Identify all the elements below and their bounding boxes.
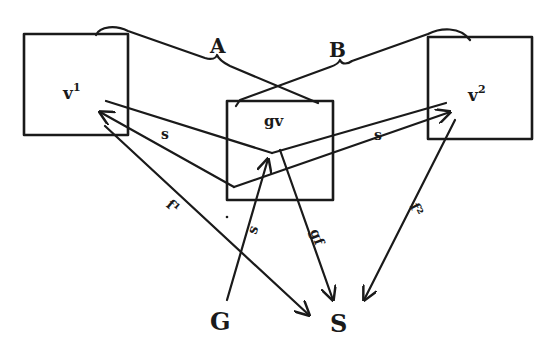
v1-label: v1: [62, 81, 81, 103]
edge-label-gf: gf: [307, 227, 328, 248]
edge-label-s-right: s: [374, 127, 382, 143]
diagram-canvas: v1 gv v2 A B s s: [0, 0, 548, 347]
edge-v1-to-s: f¹: [105, 126, 309, 315]
edge-label-f2: f²: [407, 200, 427, 218]
bracket-b-line: [236, 29, 470, 106]
edge-label-f1: f¹: [163, 196, 183, 216]
bracket-b-label: B: [329, 38, 346, 62]
node-v2: v2: [428, 37, 532, 139]
gv-label: gv: [264, 112, 284, 130]
edge-g-to-gv: s: [227, 159, 268, 300]
v2-label: v2: [467, 83, 486, 105]
edge-v2-to-s: f²: [364, 120, 455, 300]
edge-label-s-left: s: [161, 126, 169, 142]
bracket-a-label: A: [209, 34, 226, 58]
terminal-s-label: S: [330, 309, 347, 338]
dot-mark: [226, 216, 229, 219]
terminal-g-label: G: [210, 307, 231, 336]
bracket-b: B: [236, 29, 470, 106]
edge-gv-to-s: gf: [280, 150, 333, 300]
